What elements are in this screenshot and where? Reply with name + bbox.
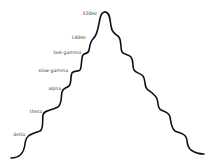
band-label-delta: delta <box>13 133 25 138</box>
band-label-320hz: 320Hz <box>82 12 97 17</box>
band-label-alpha: alpha <box>48 87 61 92</box>
band-label-theta: theta <box>30 110 42 115</box>
band-label-slow-gamma: slow-gamma <box>39 69 68 74</box>
band-label-fast-gamma: fast-gamma <box>53 51 81 56</box>
right-descending-wave <box>105 12 204 154</box>
staircase-wave-diagram <box>0 0 214 168</box>
band-label-140hz: 140Hz <box>71 36 86 41</box>
